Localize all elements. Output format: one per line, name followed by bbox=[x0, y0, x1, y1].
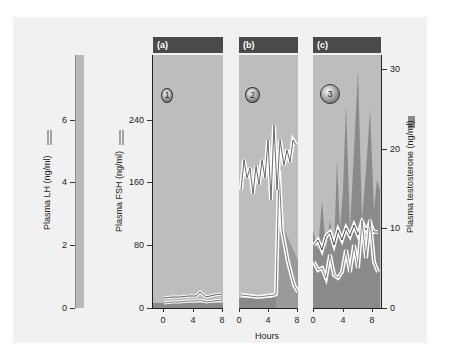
x-tick-label: 0 bbox=[157, 315, 169, 325]
x-tick bbox=[297, 308, 298, 312]
testosterone-axis-label: Plasma testosterone (ng/ml) bbox=[405, 120, 415, 233]
t-tick-label: 30 bbox=[390, 64, 414, 74]
x-tick bbox=[343, 308, 344, 312]
t-tick bbox=[382, 69, 387, 70]
x-tick-label: 0 bbox=[233, 315, 245, 325]
x-tick bbox=[372, 308, 373, 312]
t-tick-label: 0 bbox=[390, 303, 414, 313]
x-tick bbox=[193, 308, 194, 312]
x-tick-label: 8 bbox=[291, 315, 303, 325]
x-tick-label: 4 bbox=[337, 315, 349, 325]
x-tick-label: 4 bbox=[262, 315, 274, 325]
x-tick bbox=[222, 308, 223, 312]
x-tick bbox=[313, 308, 314, 312]
x-tick bbox=[268, 308, 269, 312]
panel-b-marker: 2 bbox=[245, 87, 260, 103]
x-tick-label: 8 bbox=[366, 315, 378, 325]
x-tick-label: 4 bbox=[187, 315, 199, 325]
x-tick-label: 0 bbox=[307, 315, 319, 325]
panel-c-x-axis bbox=[313, 308, 381, 309]
panel-c-marker: 3 bbox=[320, 84, 340, 104]
x-tick bbox=[163, 308, 164, 312]
t-tick bbox=[382, 228, 387, 229]
t-tick bbox=[382, 308, 387, 309]
x-tick bbox=[239, 308, 240, 312]
x-axis-label: Hours bbox=[255, 331, 279, 341]
testosterone-axis-line bbox=[381, 55, 382, 309]
panel-a-marker: 1 bbox=[161, 88, 173, 103]
t-tick bbox=[382, 149, 387, 150]
x-tick-label: 8 bbox=[216, 315, 228, 325]
